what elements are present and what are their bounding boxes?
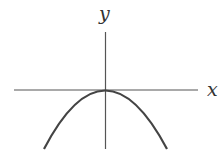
y-axis-label: y [98, 2, 110, 24]
x-axis-label: x [207, 78, 218, 100]
parabola-diagram: y x [0, 0, 221, 154]
